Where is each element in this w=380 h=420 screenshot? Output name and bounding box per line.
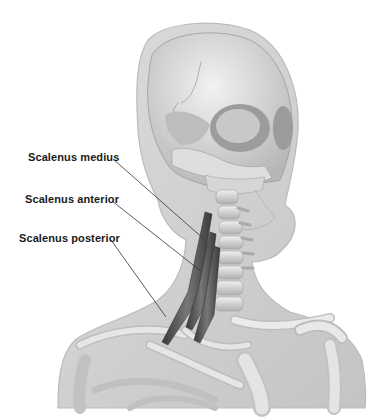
- leader-line-scalenus-posterior: [111, 240, 166, 317]
- left-orbit: [273, 106, 293, 150]
- label-scalenus-medius: Scalenus medius: [28, 151, 119, 163]
- label-scalenus-posterior: Scalenus posterior: [19, 232, 120, 244]
- anatomy-illustration: [0, 0, 380, 420]
- label-scalenus-anterior: Scalenus anterior: [25, 193, 119, 205]
